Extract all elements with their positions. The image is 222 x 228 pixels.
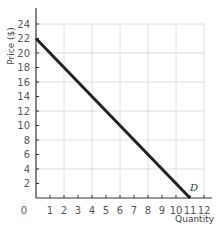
- y-tick-label: 20: [17, 48, 30, 59]
- x-tick-label: 6: [117, 205, 123, 216]
- demand-curve: [36, 39, 190, 199]
- x-tick-label: 3: [75, 205, 81, 216]
- y-tick-label: 22: [17, 33, 30, 44]
- y-tick-label: 4: [24, 164, 30, 175]
- y-tick-label: 24: [17, 19, 30, 30]
- y-tick-label: 12: [17, 106, 30, 117]
- x-tick-label: 5: [103, 205, 109, 216]
- y-tick-label: 14: [17, 91, 30, 102]
- y-tick-label: 6: [24, 149, 30, 160]
- y-tick-label: 2: [24, 178, 30, 189]
- axes: [36, 8, 212, 198]
- x-tick-label: 4: [89, 205, 95, 216]
- x-tick-label: 2: [61, 205, 67, 216]
- demand-curve-label: D: [189, 182, 198, 193]
- y-tick-label: 18: [17, 62, 30, 73]
- x-tick-label: 7: [131, 205, 137, 216]
- x-axis-title: Quantity: [175, 214, 215, 224]
- x-tick-label: 1: [47, 205, 53, 216]
- gridlines: [36, 24, 204, 198]
- y-tick-label: 8: [24, 135, 30, 146]
- demand-chart: 24681012141618202224123456789101112 Pric…: [0, 0, 222, 228]
- origin-label: 0: [21, 205, 27, 216]
- demand-line: [36, 39, 190, 199]
- x-tick-label: 9: [159, 205, 165, 216]
- y-tick-label: 16: [17, 77, 30, 88]
- y-axis-title: Price ($): [6, 27, 16, 65]
- x-tick-label: 8: [145, 205, 151, 216]
- y-tick-label: 10: [17, 120, 30, 131]
